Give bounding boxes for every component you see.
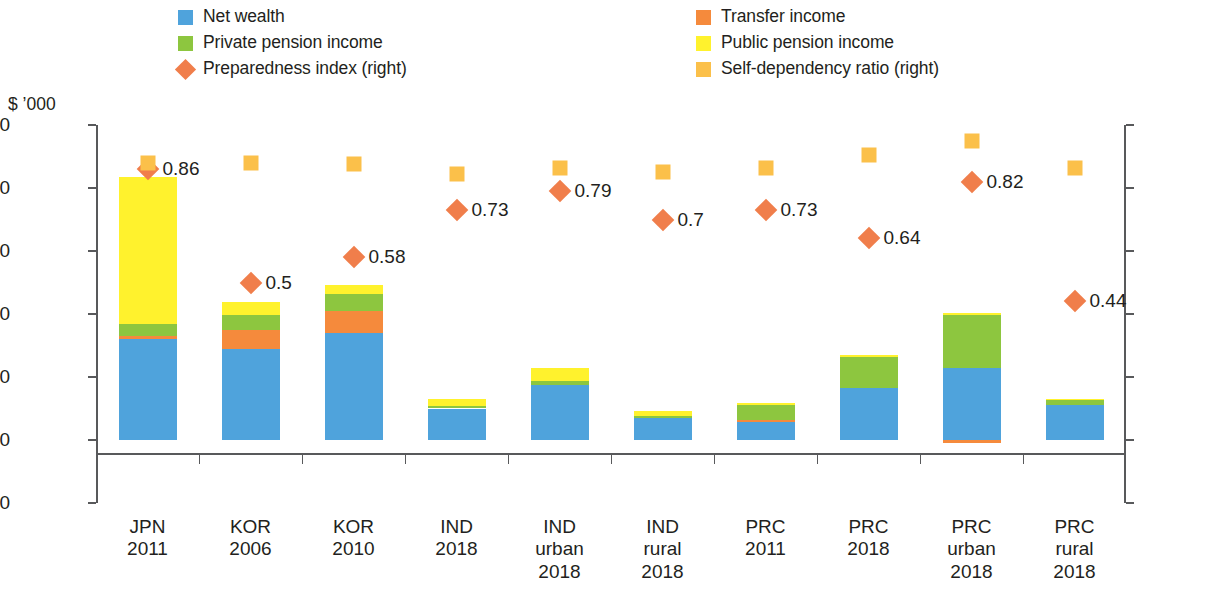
x-axis-tick bbox=[405, 453, 406, 464]
left-axis-tick bbox=[88, 502, 96, 504]
bar-group[interactable] bbox=[428, 125, 486, 503]
bar-group[interactable] bbox=[1046, 125, 1104, 503]
bar-segment[interactable] bbox=[943, 440, 1001, 443]
legend-item-transfer-income[interactable]: Transfer income bbox=[696, 4, 939, 30]
bar-segment[interactable] bbox=[943, 313, 1001, 315]
bar-segment[interactable] bbox=[1046, 399, 1104, 400]
left-axis-tick-label: 100 bbox=[0, 366, 10, 388]
data-point-label: 0.64 bbox=[884, 227, 921, 249]
bar-segment[interactable] bbox=[840, 357, 898, 387]
bar-segment[interactable] bbox=[428, 399, 486, 406]
bar-segment[interactable] bbox=[943, 368, 1001, 440]
x-axis-tick bbox=[611, 453, 612, 464]
bar-segment[interactable] bbox=[222, 349, 280, 440]
x-axis-category-line: PRC bbox=[711, 516, 821, 538]
legend-square-icon bbox=[696, 36, 711, 51]
data-point-label: 0.82 bbox=[987, 171, 1024, 193]
self-dependency-ratio-marker[interactable] bbox=[655, 165, 670, 180]
data-point-label: 0.58 bbox=[369, 246, 406, 268]
bar-group[interactable] bbox=[325, 125, 383, 503]
left-axis-tick bbox=[88, 376, 96, 378]
legend-item-private-pension-income[interactable]: Private pension income bbox=[178, 30, 407, 56]
bar-segment[interactable] bbox=[325, 333, 383, 440]
x-axis-category-line: 2018 bbox=[608, 561, 718, 583]
left-axis-tick-label: 400 bbox=[0, 177, 10, 199]
x-axis-tick bbox=[302, 453, 303, 464]
legend-item-label: Private pension income bbox=[203, 34, 383, 52]
bar-group[interactable] bbox=[634, 125, 692, 503]
legend-column-left: Net wealthPrivate pension incomePrepared… bbox=[178, 4, 407, 82]
self-dependency-ratio-marker[interactable] bbox=[1067, 160, 1082, 175]
self-dependency-ratio-marker[interactable] bbox=[346, 157, 361, 172]
legend-item-preparedness-index-right[interactable]: Preparedness index (right) bbox=[178, 56, 407, 82]
legend-item-net-wealth[interactable]: Net wealth bbox=[178, 4, 407, 30]
bar-segment[interactable] bbox=[119, 177, 177, 324]
right-axis-tick bbox=[1126, 250, 1134, 252]
left-axis-tick-label: -100 bbox=[0, 492, 10, 514]
data-point-label: 0.79 bbox=[575, 180, 612, 202]
bar-group[interactable] bbox=[119, 125, 177, 503]
x-axis-category-line: IND bbox=[608, 516, 718, 538]
bar-segment[interactable] bbox=[428, 406, 486, 409]
bar-segment[interactable] bbox=[325, 311, 383, 333]
data-point-label: 0.86 bbox=[163, 158, 200, 180]
x-axis-category-line: rural bbox=[608, 538, 718, 560]
bar-segment[interactable] bbox=[222, 302, 280, 315]
bar-segment[interactable] bbox=[222, 330, 280, 349]
bar-segment[interactable] bbox=[531, 381, 589, 385]
left-axis-tick-label: 500 bbox=[0, 114, 10, 136]
bar-segment[interactable] bbox=[428, 409, 486, 441]
bar-segment[interactable] bbox=[1046, 400, 1104, 406]
bar-segment[interactable] bbox=[531, 385, 589, 440]
legend-item-self-dependency-ratio-right[interactable]: Self-dependency ratio (right) bbox=[696, 56, 939, 82]
self-dependency-ratio-marker[interactable] bbox=[861, 147, 876, 162]
bar-segment[interactable] bbox=[634, 418, 692, 440]
bar-segment[interactable] bbox=[737, 422, 795, 440]
x-axis-category-line: KOR bbox=[299, 516, 409, 538]
right-axis-tick bbox=[1126, 502, 1134, 504]
left-axis-tick-label: 0 bbox=[0, 429, 10, 451]
self-dependency-ratio-marker[interactable] bbox=[552, 160, 567, 175]
right-axis-tick bbox=[1126, 124, 1134, 126]
bar-segment[interactable] bbox=[1046, 405, 1104, 440]
x-axis-category-line: KOR bbox=[196, 516, 306, 538]
self-dependency-ratio-marker[interactable] bbox=[140, 155, 155, 170]
bar-group[interactable] bbox=[840, 125, 898, 503]
bar-group[interactable] bbox=[222, 125, 280, 503]
x-axis-category-line: PRC bbox=[917, 516, 1027, 538]
left-axis-tick bbox=[88, 313, 96, 315]
legend-item-label: Preparedness index (right) bbox=[203, 60, 407, 78]
bar-group[interactable] bbox=[737, 125, 795, 503]
bar-segment[interactable] bbox=[737, 405, 795, 421]
bar-segment[interactable] bbox=[737, 403, 795, 405]
legend-item-public-pension-income[interactable]: Public pension income bbox=[696, 30, 939, 56]
bar-segment[interactable] bbox=[840, 388, 898, 440]
bar-segment[interactable] bbox=[737, 420, 795, 422]
bar-segment[interactable] bbox=[634, 416, 692, 418]
left-axis-tick bbox=[88, 439, 96, 441]
x-axis-tick bbox=[508, 453, 509, 464]
y-axis-unit-label: $ ’000 bbox=[8, 94, 56, 115]
bar-segment[interactable] bbox=[222, 315, 280, 329]
self-dependency-ratio-marker[interactable] bbox=[449, 166, 464, 181]
legend-square-icon bbox=[178, 10, 193, 25]
self-dependency-ratio-marker[interactable] bbox=[243, 155, 258, 170]
data-point-label: 0.7 bbox=[678, 209, 704, 231]
x-axis-category-line: 2018 bbox=[402, 538, 512, 560]
bar-segment[interactable] bbox=[119, 339, 177, 440]
bar-segment[interactable] bbox=[119, 324, 177, 336]
self-dependency-ratio-marker[interactable] bbox=[964, 133, 979, 148]
right-axis-tick bbox=[1126, 187, 1134, 189]
x-axis-tick bbox=[199, 453, 200, 464]
x-axis-category-line: 2011 bbox=[711, 538, 821, 560]
bar-segment[interactable] bbox=[634, 411, 692, 416]
bar-segment[interactable] bbox=[119, 336, 177, 339]
legend-column-right: Transfer incomePublic pension incomeSelf… bbox=[696, 4, 939, 82]
bar-segment[interactable] bbox=[325, 294, 383, 311]
bar-segment[interactable] bbox=[840, 355, 898, 358]
self-dependency-ratio-marker[interactable] bbox=[758, 160, 773, 175]
bar-segment[interactable] bbox=[531, 368, 589, 381]
bar-segment[interactable] bbox=[325, 285, 383, 294]
bar-segment[interactable] bbox=[943, 315, 1001, 367]
x-axis-category-label: JPN2011 bbox=[93, 516, 203, 561]
